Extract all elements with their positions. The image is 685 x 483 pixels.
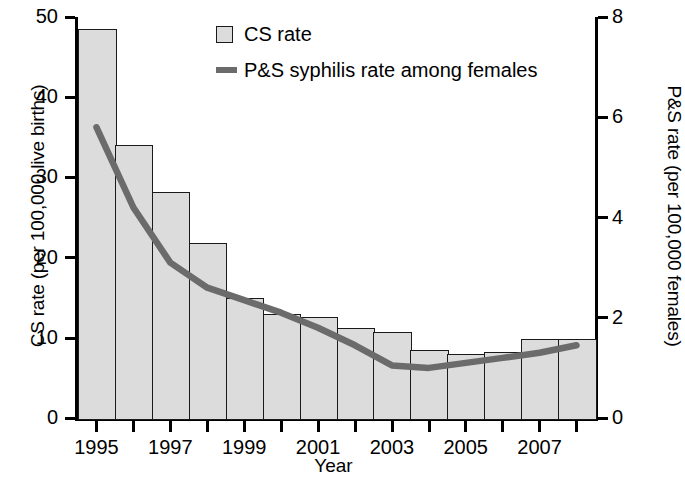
y-tick-label-right: 8 [612,6,652,28]
bar-2002 [337,328,376,419]
legend-item-pands-rate: P&S syphilis rate among females [216,60,537,80]
bar-2005 [447,354,486,420]
x-tick [428,421,431,432]
x-tick [132,421,135,432]
x-tick [95,421,98,432]
bar-2006 [484,352,523,419]
x-tick [354,421,357,432]
bar-2000 [263,314,302,420]
y-tick-label-left: 50 [0,6,58,28]
bar-1997 [152,192,191,420]
bar-2008 [558,339,597,419]
x-tick [280,421,283,432]
x-tick [575,421,578,432]
x-tick [169,421,172,432]
x-tick-label: 1999 [204,437,284,461]
x-tick-label: 2003 [352,437,432,461]
y-tick-label-left: 30 [0,166,58,188]
y-tick-left [65,16,75,19]
x-tick-label: 1997 [130,437,210,461]
bar-2003 [373,332,412,419]
legend-item-cs-rate: CS rate [216,24,537,44]
y-tick-left [65,256,75,259]
legend-label-pands-rate: P&S syphilis rate among females [244,60,537,80]
legend-label-cs-rate: CS rate [244,24,312,44]
y-tick-left [65,96,75,99]
x-tick [464,421,467,432]
x-tick [243,421,246,432]
y-tick-left [65,337,75,340]
x-tick [206,421,209,432]
x-tick [317,421,320,432]
x-tick-label: 2005 [426,437,506,461]
x-tick [538,421,541,432]
x-tick-label: 2001 [278,437,358,461]
bar-2004 [410,350,449,420]
y-tick-label-right: 2 [612,307,652,329]
y-tick-right [598,316,608,319]
bar-1999 [226,298,265,420]
bar-1995 [78,29,117,420]
bar-swatch-icon [216,26,233,43]
y-tick-right [598,116,608,119]
chart-legend: CS rate P&S syphilis rate among females [216,24,537,96]
y-tick-label-left: 10 [0,327,58,349]
x-tick-label: 1995 [56,437,136,461]
y-tick-label-right: 6 [612,106,652,128]
x-tick [501,421,504,432]
y-tick-right [598,216,608,219]
y-tick-right [598,16,608,19]
x-tick-label: 2007 [500,437,580,461]
y-tick-label-right: 0 [612,407,652,429]
bar-2007 [521,339,560,419]
y-axis-right-title: P&S rate (per 100,000 females) [663,36,685,396]
y-tick-left [65,417,75,420]
x-tick [391,421,394,432]
y-tick-right [598,417,608,420]
y-tick-label-left: 40 [0,86,58,108]
y-tick-label-left: 20 [0,247,58,269]
bar-1998 [189,243,228,419]
line-swatch-icon [216,67,237,73]
y-tick-left [65,176,75,179]
y-tick-label-left: 0 [0,407,58,429]
y-tick-label-right: 4 [612,207,652,229]
bar-2001 [300,317,339,420]
bar-1996 [115,145,154,419]
